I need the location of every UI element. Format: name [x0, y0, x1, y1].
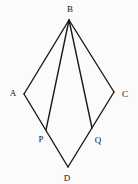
edge-BC	[69, 20, 114, 92]
diagram-canvas: BACDPQ	[0, 0, 138, 184]
edge-BP	[46, 20, 69, 130]
geometry-diagram: BACDPQ	[0, 0, 138, 184]
vertex-label-D: D	[64, 173, 71, 183]
edge-BA	[24, 20, 69, 94]
edge-AD	[24, 94, 68, 167]
vertex-label-Q: Q	[95, 135, 102, 145]
edge-BQ	[69, 20, 92, 128]
vertex-label-P: P	[38, 134, 43, 144]
edge-CD	[68, 92, 114, 167]
vertex-label-B: B	[67, 4, 73, 14]
vertex-label-C: C	[122, 89, 128, 99]
vertex-label-A: A	[10, 88, 17, 98]
